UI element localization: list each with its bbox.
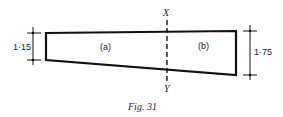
beam-outline <box>46 31 236 75</box>
region-label-b: (b) <box>198 41 209 51</box>
left-depth-label: 1·15 <box>13 42 31 52</box>
section-label-top: X <box>162 7 170 18</box>
tapered-beam-diagram: X Y (a) (b) 1·15 1·75 Fig. 31 <box>0 0 283 117</box>
right-depth-label: 1·75 <box>254 47 272 57</box>
region-label-a: (a) <box>100 42 111 52</box>
section-label-bottom: Y <box>164 83 171 94</box>
figure-caption: Fig. 31 <box>127 101 157 112</box>
